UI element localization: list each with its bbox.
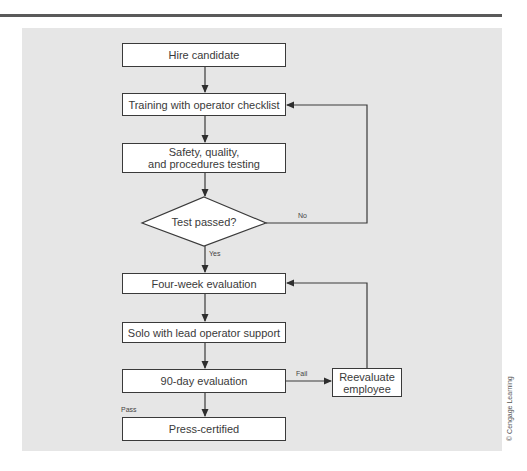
node-label: Solo with lead operator support	[128, 327, 280, 339]
edge-label-no: No	[298, 212, 307, 220]
node-label-line-1: Reevaluate	[339, 371, 395, 383]
node-label: Hire candidate	[169, 49, 240, 61]
node-label: Training with operator checklist	[128, 99, 279, 111]
node-testing: Safety, quality, and procedures testing	[122, 143, 286, 173]
node-four-week-evaluation: Four-week evaluation	[122, 273, 286, 294]
node-label: Press-certified	[169, 423, 239, 435]
copyright-credit: © Cengage Learning	[506, 376, 513, 441]
node-label: Four-week evaluation	[151, 278, 256, 290]
edge-label-pass: Pass	[121, 406, 137, 414]
node-label-line-1: Safety, quality,	[169, 146, 240, 158]
node-press-certified: Press-certified	[122, 417, 286, 441]
edge-label-fail: Fail	[296, 370, 307, 378]
node-ninety-day-evaluation: 90-day evaluation	[122, 369, 286, 393]
edge-label-yes: Yes	[209, 250, 220, 258]
flowchart-connectors	[0, 0, 527, 471]
node-label: 90-day evaluation	[161, 375, 248, 387]
node-label-line-2: and procedures testing	[148, 158, 260, 170]
node-reevaluate-employee: Reevaluate employee	[332, 368, 402, 397]
node-solo-support: Solo with lead operator support	[122, 322, 286, 343]
node-training: Training with operator checklist	[122, 93, 286, 116]
node-label-line-2: employee	[343, 383, 391, 395]
arrow-reevaluate-to-four-week	[287, 283, 367, 368]
node-hire-candidate: Hire candidate	[122, 43, 286, 67]
decision-label: Test passed?	[142, 216, 266, 228]
